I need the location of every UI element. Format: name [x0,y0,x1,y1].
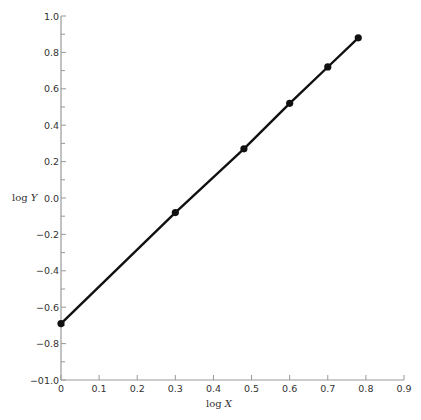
x-tick-label: 0.3 [168,383,183,394]
x-tick-label: 0.8 [358,383,373,394]
y-tick-label: 0.2 [44,156,59,167]
y-tick-label: −0.2 [36,229,59,240]
x-tick-label: 0.2 [130,383,145,394]
series-line [61,38,358,324]
data-point-marker [324,63,331,70]
data-point-marker [355,34,362,41]
y-axis-title: log Y [12,192,39,203]
x-tick-label: 0 [58,383,64,394]
y-tick-label: −0.8 [36,338,59,349]
data-point-marker [172,209,179,216]
y-tick-label: 0.6 [44,83,59,94]
y-tick-label: −01.0 [30,375,59,386]
y-tick-label: 1.0 [44,11,59,22]
data-series [57,34,361,327]
y-tick-label: −0.4 [36,265,59,276]
x-tick-label: 0.1 [92,383,107,394]
x-tick-label: 0.6 [282,383,297,394]
y-tick-label: 0.8 [44,47,59,58]
y-tick-label: 0.4 [44,120,59,131]
x-tick-label: 0.9 [396,383,411,394]
line-chart: 1.00.80.60.40.20.0−0.2−0.4−0.6−0.8−01.0 … [0,0,421,420]
data-point-marker [57,320,64,327]
data-point-marker [240,145,247,152]
x-axis-title: log X [206,398,233,409]
x-tick-label: 0.5 [244,383,259,394]
y-tick-label: 0.0 [44,193,59,204]
y-tick-label: −0.6 [36,302,59,313]
x-tick-label: 0.4 [206,383,221,394]
x-tick-label: 0.7 [320,383,335,394]
x-axis: 00.10.20.30.40.50.60.70.80.9 [58,375,412,394]
data-point-marker [286,100,293,107]
